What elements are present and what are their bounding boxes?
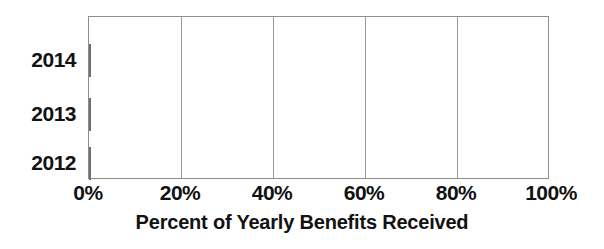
x-axis-tick-label: 20% [160,181,201,205]
plot-area [88,16,549,179]
x-axis-tick-label: 40% [252,181,293,205]
y-axis-tick-label: 2012 [31,146,76,179]
x-axis-tick-label: 0% [73,181,102,205]
bar-2013 [89,98,91,131]
x-axis-tick-label: 60% [344,181,385,205]
y-axis-tick-label: 2014 [31,43,76,76]
y-axis-tick-label: 2013 [31,97,76,130]
x-axis-tick-label: 100% [525,181,577,205]
y-axis-category-labels: 2014 2013 2012 [0,16,82,179]
bar-chart: 2014 2013 2012 0% 20% 40% 60% 80% 100% [0,0,604,249]
x-axis-tick-labels: 0% 20% 40% 60% 80% 100% [0,181,604,209]
bar-2014 [89,44,91,77]
bar-2012 [89,147,91,180]
x-axis-title: Percent of Yearly Benefits Received [0,211,604,234]
x-axis-tick-label: 80% [436,181,477,205]
bars-layer [89,17,548,178]
